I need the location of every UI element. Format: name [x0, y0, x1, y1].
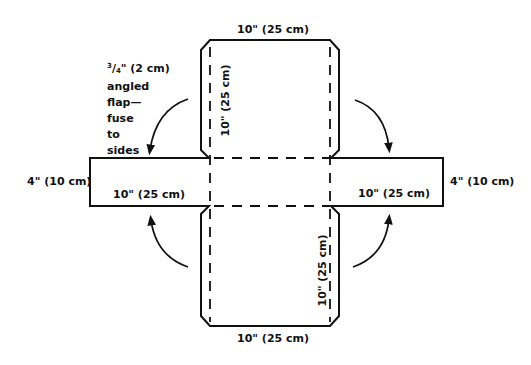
label-right-flap-height: 4" (10 cm) [450, 176, 514, 187]
flap-note-line: to [107, 127, 170, 143]
flap-note-line: angled [107, 79, 170, 95]
label-left-flap-height: 4" (10 cm) [27, 176, 91, 187]
flap-note-size: 3/4" (2 cm) [107, 58, 170, 79]
arrow-bottom-right-icon [353, 219, 389, 267]
label-right-flap-width: 10" (25 cm) [358, 188, 430, 199]
flap-note-line: fuse [107, 111, 170, 127]
flap-note: 3/4" (2 cm) angled flap— fuse to sides [107, 58, 170, 159]
flap-note-line: flap— [107, 95, 170, 111]
label-left-flap-width: 10" (25 cm) [113, 189, 185, 200]
label-bottom-width: 10" (25 cm) [237, 333, 309, 344]
label-top-panel-height: 10" (25 cm) [220, 64, 231, 136]
label-bottom-panel-height: 10" (25 cm) [317, 234, 328, 306]
arrow-bottom-left-icon [151, 220, 188, 267]
fold-arrows [150, 99, 389, 267]
flap-note-line: sides [107, 143, 170, 159]
arrow-top-right-icon [355, 100, 389, 148]
label-top-width: 10" (25 cm) [237, 24, 309, 35]
